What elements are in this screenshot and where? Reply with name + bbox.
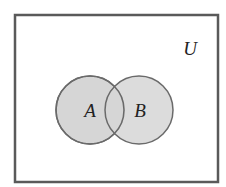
venn-diagram: U A B — [0, 0, 226, 187]
universe-label: U — [183, 38, 198, 59]
set-a-label: A — [82, 100, 96, 121]
set-b-label: B — [134, 100, 146, 121]
